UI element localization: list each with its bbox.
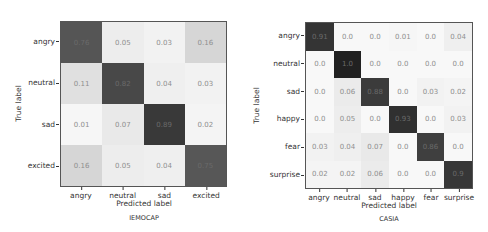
matrix-cell: 0.91 [306, 23, 334, 51]
matrix-cell: 0.9 [444, 161, 472, 189]
matrix-cell: 0.03 [306, 133, 334, 161]
matrix-cell: 0.0 [306, 78, 334, 106]
matrix-cell: 0.75 [185, 145, 226, 186]
matrix-cell: 0.0 [361, 51, 389, 79]
matrix-cell: 0.82 [102, 63, 143, 104]
matrix-cell: 0.0 [389, 78, 417, 106]
matrix-cell: 0.0 [417, 106, 445, 134]
matrix-cell: 1.0 [334, 51, 362, 79]
matrix-cell: 0.0 [334, 23, 362, 51]
matrix-cell: 0.88 [361, 78, 389, 106]
y-tick-neutral: neutral [273, 59, 304, 68]
x-axis-label: Predicted label [361, 201, 417, 210]
matrix-cell: 0.16 [185, 22, 226, 63]
matrix-cell: 0.11 [61, 63, 102, 104]
y-tick-surprise: surprise [270, 170, 304, 179]
x-tick-excited: excited [192, 191, 219, 200]
y-axis-label: True label [252, 86, 261, 126]
matrix-cell: 0.02 [334, 161, 362, 189]
matrix-cell: 0.02 [444, 78, 472, 106]
chart-caption: CASIA [379, 215, 398, 223]
matrix-cell: 0.76 [61, 22, 102, 63]
matrix-cell: 0.0 [389, 161, 417, 189]
matrix-cell: 0.01 [389, 23, 417, 51]
y-tick-happy: happy [277, 114, 304, 123]
matrix-cell: 0.02 [306, 161, 334, 189]
matrix-cell: 0.0 [389, 51, 417, 79]
matrix-cell: 0.03 [444, 106, 472, 134]
matrix-cell: 0.05 [102, 22, 143, 63]
chart-caption: IEMOCAP [129, 214, 159, 222]
matrix-cell: 0.05 [334, 106, 362, 134]
matrix-cell: 0.01 [61, 104, 102, 145]
matrix-cell: 0.07 [102, 104, 143, 145]
matrix-cell: 0.0 [306, 106, 334, 134]
matrix-cell: 0.03 [185, 63, 226, 104]
x-tick-fear: fear [424, 193, 439, 202]
matrix-cell: 0.0 [417, 161, 445, 189]
iemocap-panel: True label angryneutralsadexcited 0.760.… [0, 0, 244, 232]
matrix-cell: 0.16 [61, 145, 102, 186]
x-tick-neutral: neutral [334, 193, 361, 202]
matrix-cell: 0.89 [144, 104, 185, 145]
matrix-cell: 0.04 [444, 23, 472, 51]
matrix-cell: 0.04 [144, 63, 185, 104]
matrix-cell: 0.0 [444, 51, 472, 79]
matrix-cell: 0.03 [144, 22, 185, 63]
y-tick-sad: sad [42, 120, 59, 129]
matrix-cell: 0.0 [417, 23, 445, 51]
matrix-cell: 0.04 [334, 133, 362, 161]
confusion-matrix-casia: 0.910.00.00.010.00.040.01.00.00.00.00.00… [305, 22, 473, 189]
confusion-matrix-iemocap: 0.760.050.030.160.110.820.040.030.010.07… [60, 21, 227, 187]
matrix-cell: 0.0 [444, 133, 472, 161]
matrix-cell: 0.0 [417, 51, 445, 79]
y-tick-neutral: neutral [28, 78, 59, 87]
y-axis-label: True label [14, 84, 23, 124]
matrix-cell: 0.06 [334, 78, 362, 106]
x-tick-surprise: surprise [444, 193, 474, 202]
y-tick-sad: sad [287, 87, 304, 96]
matrix-cell: 0.03 [417, 78, 445, 106]
y-tick-excited: excited [28, 161, 59, 170]
y-tick-angry: angry [33, 37, 59, 46]
matrix-cell: 0.07 [361, 133, 389, 161]
casia-panel: True label angryneutralsadhappyfearsurpr… [244, 0, 488, 232]
y-tick-fear: fear [285, 142, 304, 151]
x-axis-label: Predicted label [116, 199, 172, 208]
matrix-cell: 0.05 [102, 145, 143, 186]
matrix-cell: 0.06 [361, 161, 389, 189]
matrix-cell: 0.0 [389, 133, 417, 161]
matrix-cell: 0.0 [361, 23, 389, 51]
y-tick-angry: angry [278, 31, 304, 40]
matrix-cell: 0.04 [144, 145, 185, 186]
matrix-cell: 0.0 [361, 106, 389, 134]
matrix-cell: 0.86 [417, 133, 445, 161]
matrix-cell: 0.0 [306, 51, 334, 79]
matrix-cell: 0.93 [389, 106, 417, 134]
x-tick-angry: angry [70, 191, 92, 200]
x-tick-angry: angry [308, 193, 330, 202]
matrix-cell: 0.02 [185, 104, 226, 145]
